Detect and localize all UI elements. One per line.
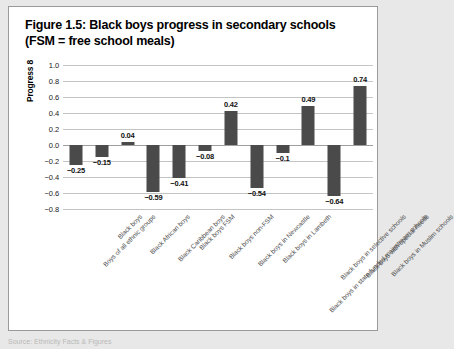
y-axis-tick-label: 0.2 xyxy=(49,125,59,134)
y-axis-tick-label: −0.4 xyxy=(45,173,59,182)
bar[interactable] xyxy=(276,145,289,153)
bar-slot: 0.04 xyxy=(115,65,141,209)
bar-slot: −0.41 xyxy=(166,65,192,209)
plot-area: 1.00.80.60.40.20.0−0.2−0.4−0.6−0.8 −0.25… xyxy=(63,65,373,209)
bar-slot: −0.15 xyxy=(89,65,115,209)
bar-value-label: 0.49 xyxy=(302,95,316,104)
bar-slot: −0.08 xyxy=(192,65,218,209)
bar-slot: −0.25 xyxy=(63,65,89,209)
bar-slot: −0.54 xyxy=(244,65,270,209)
y-axis-tick-label: −0.2 xyxy=(45,157,59,166)
bar-value-label: 0.04 xyxy=(121,131,135,140)
bar[interactable] xyxy=(328,145,341,196)
y-axis-tick-label: 0.6 xyxy=(49,93,59,102)
y-axis-title: Progress 8 xyxy=(25,60,35,102)
gridline: −0.8 xyxy=(63,209,373,210)
figure-title: Figure 1.5: Black boys progress in secon… xyxy=(25,17,365,49)
y-axis-tick-label: −0.8 xyxy=(45,205,59,214)
bar-slot: 0.42 xyxy=(218,65,244,209)
bar-value-label: −0.15 xyxy=(93,158,111,167)
bar-value-label: −0.08 xyxy=(196,152,214,161)
bar[interactable] xyxy=(121,142,134,145)
bar[interactable] xyxy=(147,145,160,192)
source-note: Source: Ethnicity Facts & Figures xyxy=(8,338,111,345)
bar-slot: −0.59 xyxy=(141,65,167,209)
bar[interactable] xyxy=(224,111,237,145)
bar[interactable] xyxy=(199,145,212,151)
bar-slot: 0.74 xyxy=(347,65,373,209)
y-axis-tick-label: 0.0 xyxy=(49,141,59,150)
y-axis-tick-label: −0.6 xyxy=(45,189,59,198)
bar-value-label: −0.64 xyxy=(325,197,343,206)
bar[interactable] xyxy=(95,145,108,157)
y-axis-tick-label: 1.0 xyxy=(49,61,59,70)
figure-title-line-1: Figure 1.5: Black boys progress in secon… xyxy=(25,17,365,33)
bar-value-label: −0.41 xyxy=(170,179,188,188)
bar[interactable] xyxy=(250,145,263,188)
bar[interactable] xyxy=(354,86,367,145)
bar-slot: 0.49 xyxy=(296,65,322,209)
y-axis-tick-label: 0.8 xyxy=(49,77,59,86)
figure-card: Figure 1.5: Black boys progress in secon… xyxy=(8,6,378,331)
bar-slot: −0.1 xyxy=(270,65,296,209)
bar-slot: −0.64 xyxy=(321,65,347,209)
y-axis-tick-label: 0.4 xyxy=(49,109,59,118)
bar-value-label: −0.25 xyxy=(67,166,85,175)
bar[interactable] xyxy=(69,145,82,165)
figure-title-line-2: (FSM = free school meals) xyxy=(25,33,365,49)
bar[interactable] xyxy=(173,145,186,178)
bar[interactable] xyxy=(302,106,315,145)
bar-value-label: 0.74 xyxy=(353,75,367,84)
bar-value-label: −0.59 xyxy=(144,193,162,202)
bar-value-label: 0.42 xyxy=(224,100,238,109)
bar-value-label: −0.1 xyxy=(276,154,290,163)
bar-value-label: −0.54 xyxy=(248,189,266,198)
